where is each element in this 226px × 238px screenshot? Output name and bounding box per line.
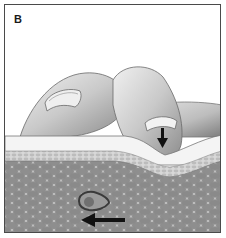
illustration (5, 5, 221, 233)
panel-label: B (14, 13, 22, 25)
figure-frame: B (4, 4, 221, 233)
